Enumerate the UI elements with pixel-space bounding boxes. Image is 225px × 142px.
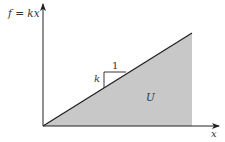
slope-run-label: 1 bbox=[112, 60, 118, 71]
force-displacement-diagram: f = kx x 1 k U bbox=[0, 0, 225, 142]
area-label: U bbox=[146, 91, 156, 103]
y-axis-label: f = kx bbox=[7, 7, 40, 19]
x-axis-label: x bbox=[211, 128, 217, 139]
slope-rise-label: k bbox=[94, 73, 100, 84]
